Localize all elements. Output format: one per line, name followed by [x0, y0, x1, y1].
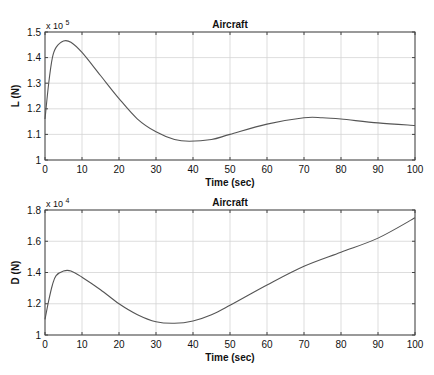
y-tick-label: 1.4	[27, 267, 41, 278]
x-tick-label: 70	[298, 164, 310, 175]
x-tick-label: 80	[335, 164, 347, 175]
drag-plot: 010203040506070809010011.21.41.61.8x 10 …	[10, 197, 424, 363]
x-tick-label: 30	[150, 164, 162, 175]
x-tick-label: 10	[76, 339, 88, 350]
y-tick-label: 1	[35, 155, 41, 166]
lift-plot: 010203040506070809010011.11.21.31.41.5x …	[10, 19, 424, 188]
x-tick-label: 70	[298, 339, 310, 350]
y-tick-label: 1.5	[27, 27, 41, 38]
x-tick-label: 100	[407, 164, 424, 175]
x-tick-label: 60	[261, 164, 273, 175]
y-tick-label: 1.6	[27, 236, 41, 247]
chart-title: Aircraft	[212, 19, 248, 30]
y-tick-label: 1.2	[27, 298, 41, 309]
y-exponent-label: x 10 5	[46, 19, 70, 31]
y-tick-label: 1.8	[27, 205, 41, 216]
y-tick-label: 1.1	[27, 129, 41, 140]
x-tick-label: 20	[113, 164, 125, 175]
x-tick-label: 60	[261, 339, 273, 350]
x-tick-label: 90	[372, 164, 384, 175]
y-tick-label: 1	[35, 330, 41, 341]
y-axis-label: D (N)	[10, 261, 21, 285]
x-tick-label: 30	[150, 339, 162, 350]
chart-title: Aircraft	[212, 197, 248, 208]
x-tick-label: 40	[187, 339, 199, 350]
y-axis-label: L (N)	[10, 85, 21, 108]
y-tick-label: 1.2	[27, 103, 41, 114]
x-axis-label: Time (sec)	[205, 177, 254, 188]
x-axis-label: Time (sec)	[205, 352, 254, 363]
x-tick-label: 0	[42, 164, 48, 175]
x-tick-label: 10	[76, 164, 88, 175]
y-tick-label: 1.4	[27, 52, 41, 63]
x-tick-label: 0	[42, 339, 48, 350]
x-tick-label: 50	[224, 164, 236, 175]
x-tick-label: 90	[372, 339, 384, 350]
x-tick-label: 50	[224, 339, 236, 350]
figure: 010203040506070809010011.11.21.31.41.5x …	[0, 0, 434, 375]
x-tick-label: 40	[187, 164, 199, 175]
y-tick-label: 1.3	[27, 78, 41, 89]
x-tick-label: 80	[335, 339, 347, 350]
x-tick-label: 100	[407, 339, 424, 350]
x-tick-label: 20	[113, 339, 125, 350]
y-exponent-label: x 10 4	[46, 197, 70, 209]
